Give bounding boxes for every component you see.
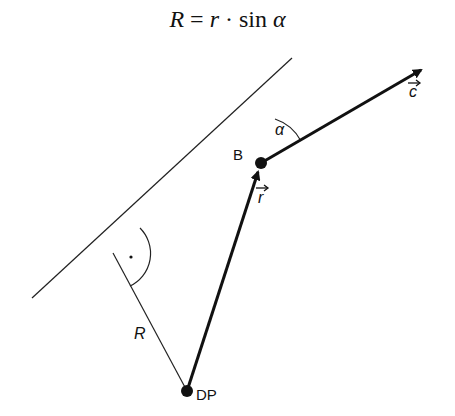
vector-r-arrow (187, 172, 258, 391)
reference-line (32, 58, 292, 298)
label-r: r (258, 189, 264, 206)
geometry-diagram: B α c r R DP (0, 0, 455, 416)
label-B: B (233, 146, 243, 163)
point-B (255, 157, 267, 169)
label-alpha: α (275, 121, 285, 138)
vector-c-arrow (261, 70, 421, 163)
label-R: R (134, 325, 146, 342)
right-angle-dot (129, 255, 132, 258)
point-DP (181, 385, 193, 397)
right-angle-arc (130, 228, 151, 286)
label-DP: DP (196, 386, 217, 403)
perpendicular-R-line (113, 253, 187, 391)
